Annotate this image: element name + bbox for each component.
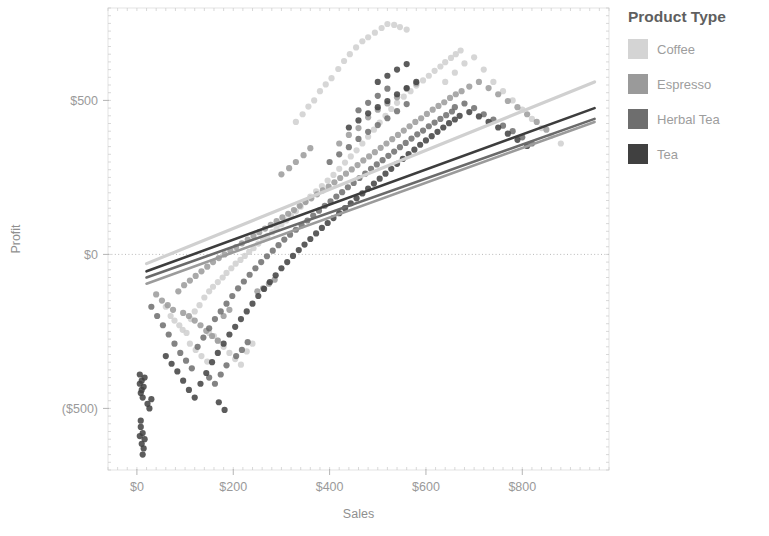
legend-swatch bbox=[628, 109, 648, 129]
data-point bbox=[365, 34, 371, 40]
data-point bbox=[154, 313, 160, 319]
data-point bbox=[446, 120, 452, 126]
data-point bbox=[534, 119, 540, 125]
data-point bbox=[453, 91, 459, 97]
data-point bbox=[343, 171, 349, 177]
data-point bbox=[375, 79, 381, 85]
data-point bbox=[349, 166, 355, 172]
data-point bbox=[397, 24, 403, 30]
data-point bbox=[418, 115, 424, 121]
data-point bbox=[353, 44, 359, 50]
data-point bbox=[466, 109, 472, 115]
data-point bbox=[397, 144, 403, 150]
data-point bbox=[375, 104, 381, 110]
data-point bbox=[181, 282, 187, 288]
data-point bbox=[247, 272, 253, 278]
data-point bbox=[275, 242, 281, 248]
data-point bbox=[177, 350, 183, 356]
data-point bbox=[347, 51, 353, 57]
data-point bbox=[391, 22, 397, 28]
data-point bbox=[385, 153, 391, 159]
data-point bbox=[505, 131, 511, 137]
legend-item-tea[interactable]: Tea bbox=[628, 144, 679, 164]
data-point bbox=[252, 265, 258, 271]
data-point bbox=[411, 147, 417, 153]
data-point bbox=[435, 103, 441, 109]
data-point bbox=[495, 124, 501, 130]
data-point bbox=[165, 302, 171, 308]
data-point bbox=[229, 293, 235, 299]
data-point bbox=[372, 30, 378, 36]
data-point bbox=[203, 370, 209, 376]
data-point bbox=[317, 88, 323, 94]
data-point bbox=[300, 111, 306, 117]
data-point bbox=[142, 375, 148, 381]
data-point bbox=[461, 100, 467, 106]
data-point bbox=[434, 129, 440, 135]
data-point bbox=[212, 316, 218, 322]
legend-item-herbal-tea[interactable]: Herbal Tea bbox=[628, 109, 720, 129]
data-point bbox=[325, 220, 331, 226]
legend-swatch bbox=[628, 74, 648, 94]
data-point bbox=[391, 148, 397, 154]
data-point bbox=[226, 350, 232, 356]
data-point bbox=[452, 104, 458, 110]
data-point bbox=[192, 318, 198, 324]
data-point bbox=[346, 144, 352, 150]
data-point bbox=[394, 91, 400, 97]
data-point bbox=[394, 108, 400, 114]
data-point bbox=[197, 381, 203, 387]
data-point bbox=[441, 99, 447, 105]
data-point bbox=[293, 159, 299, 165]
legend-item-espresso[interactable]: Espresso bbox=[628, 74, 711, 94]
data-point bbox=[285, 211, 291, 217]
data-point bbox=[148, 304, 154, 310]
data-point bbox=[403, 140, 409, 146]
data-point bbox=[327, 159, 333, 165]
data-point bbox=[293, 119, 299, 125]
data-point bbox=[198, 353, 204, 359]
data-point bbox=[336, 151, 342, 157]
data-point bbox=[209, 359, 215, 365]
data-point bbox=[139, 387, 145, 393]
scatter-plot-chart: $500$0($500)$0$200$400$600$800SalesProfi… bbox=[0, 0, 769, 536]
data-point bbox=[212, 381, 218, 387]
data-point bbox=[228, 265, 234, 271]
data-point bbox=[187, 341, 193, 347]
y-axis-tick-label: $500 bbox=[70, 94, 98, 108]
data-point bbox=[348, 153, 354, 159]
y-axis-title: Profit bbox=[9, 224, 23, 254]
data-point bbox=[192, 395, 198, 401]
data-point bbox=[330, 172, 336, 178]
data-point bbox=[223, 270, 229, 276]
data-point bbox=[401, 94, 407, 100]
data-point bbox=[383, 140, 389, 146]
data-point bbox=[140, 452, 146, 458]
legend-item-coffee[interactable]: Coffee bbox=[628, 39, 695, 59]
data-point bbox=[189, 365, 195, 371]
data-point bbox=[187, 277, 193, 283]
data-point bbox=[311, 97, 317, 103]
data-point bbox=[264, 253, 270, 259]
data-point bbox=[404, 61, 410, 67]
data-point bbox=[216, 399, 222, 405]
y-axis-tick-label: ($500) bbox=[62, 402, 98, 416]
data-point bbox=[471, 105, 477, 111]
data-point bbox=[137, 433, 143, 439]
data-point bbox=[210, 284, 216, 290]
data-point bbox=[218, 371, 224, 377]
data-point bbox=[137, 381, 143, 387]
data-point bbox=[193, 273, 199, 279]
data-point bbox=[377, 176, 383, 182]
data-point bbox=[490, 79, 496, 85]
data-point bbox=[375, 93, 381, 99]
data-point bbox=[440, 124, 446, 130]
data-point bbox=[432, 119, 438, 125]
data-point bbox=[290, 253, 296, 259]
x-axis-tick-label: $0 bbox=[130, 480, 144, 494]
legend-swatch bbox=[628, 144, 648, 164]
data-point bbox=[384, 115, 390, 121]
data-point bbox=[300, 152, 306, 158]
data-point bbox=[384, 73, 390, 79]
data-point bbox=[286, 165, 292, 171]
